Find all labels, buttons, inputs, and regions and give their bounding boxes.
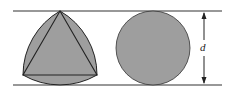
arrowhead-up-icon <box>202 12 207 19</box>
circle-shape <box>116 11 190 85</box>
diagram-canvas: d <box>0 0 236 93</box>
reuleaux-triangle <box>23 11 97 85</box>
arrowhead-down-icon <box>202 77 207 84</box>
dimension-label: d <box>200 41 206 53</box>
